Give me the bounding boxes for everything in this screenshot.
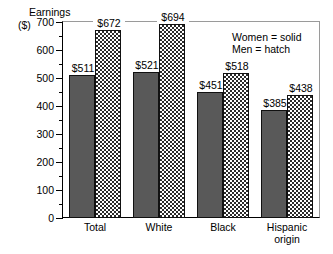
- bar-value-label: $518: [221, 61, 253, 72]
- x-tick-label-line: origin: [247, 234, 327, 246]
- y-tick-label: 400: [24, 101, 54, 112]
- y-tick-major: [56, 50, 63, 51]
- bar-value-label: $438: [285, 83, 317, 94]
- y-tick-major: [56, 190, 63, 191]
- legend-entry-women: Women = solid: [232, 31, 302, 43]
- x-tick-label-line: Hispanic: [247, 222, 327, 234]
- bar-women-white: [133, 72, 159, 218]
- bar-value-label: $694: [157, 12, 189, 23]
- bar-men-white: [159, 24, 185, 218]
- y-tick-label: 300: [24, 129, 54, 140]
- y-tick-label: 100: [24, 185, 54, 196]
- y-tick-major: [56, 134, 63, 135]
- bar-women-total: [69, 75, 95, 218]
- y-tick-label: 500: [24, 73, 54, 84]
- earnings-bar-chart: Earnings ($) 0100200300400500600700 $511…: [0, 0, 333, 254]
- y-tick-major: [56, 106, 63, 107]
- y-tick-label: 0: [24, 213, 54, 224]
- bar-men-hispanic-origin: [287, 95, 313, 218]
- chart-legend: Women = solid Men = hatch: [232, 31, 302, 55]
- legend-entry-men: Men = hatch: [232, 43, 302, 55]
- y-tick-major: [56, 22, 63, 23]
- bar-women-hispanic-origin: [261, 110, 287, 218]
- y-tick-label: 700: [24, 17, 54, 28]
- bar-men-total: [95, 30, 121, 218]
- x-tick-label: Hispanicorigin: [247, 222, 327, 245]
- y-tick-label: 200: [24, 157, 54, 168]
- y-tick-major: [56, 162, 63, 163]
- bar-men-black: [223, 73, 249, 218]
- y-tick-major: [56, 218, 63, 219]
- bar-value-label: $672: [93, 18, 125, 29]
- y-tick-label: 600: [24, 45, 54, 56]
- y-tick-major: [56, 78, 63, 79]
- bar-women-black: [197, 92, 223, 218]
